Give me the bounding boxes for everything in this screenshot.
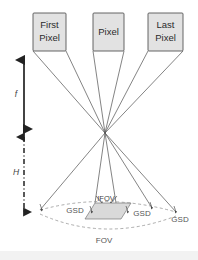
detector-array: First Pixel Pixel Last Pixel (33, 13, 183, 51)
upper-ray-bundle (33, 51, 183, 133)
ray-last-pixel-right (105, 51, 183, 133)
ray-last-pixel-left (105, 51, 148, 133)
last-pixel-label-line2: Pixel (155, 32, 176, 43)
ray-ground-far-left (40, 133, 105, 210)
last-pixel-label-line1: Last (157, 19, 175, 30)
gsd-label-left: GSD (66, 206, 84, 215)
focal-length-axis: f (15, 60, 24, 129)
gsd-label-right: GSD (171, 215, 189, 224)
altitude-axis: H (13, 137, 24, 212)
bottom-edge-band (0, 251, 198, 260)
diagram-canvas: First Pixel Pixel Last Pixel f H (0, 0, 198, 260)
first-pixel-label-line1: First (40, 19, 59, 30)
detector-box-last-pixel: Last Pixel (148, 13, 183, 51)
first-pixel-label-line2: Pixel (39, 32, 60, 43)
focal-length-label: f (15, 89, 19, 99)
sensor-geometry-figure: First Pixel Pixel Last Pixel f H (0, 0, 198, 260)
altitude-label: H (13, 167, 20, 177)
ground-footprint: IFOV (85, 194, 131, 219)
fov-label: FOV (96, 236, 113, 245)
detector-box-pixel: Pixel (93, 13, 124, 51)
ray-first-pixel-left (33, 51, 105, 133)
gsd-label-center: GSD (133, 209, 151, 218)
ray-pixel-right (105, 51, 124, 133)
pixel-label-line1: Pixel (98, 26, 119, 37)
detector-box-first-pixel: First Pixel (33, 13, 66, 51)
